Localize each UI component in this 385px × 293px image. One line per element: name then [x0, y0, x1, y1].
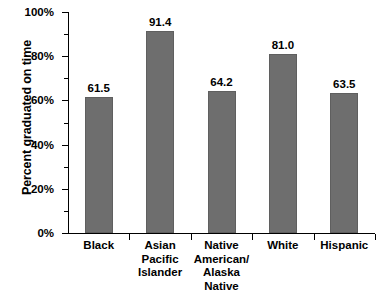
y-tick-label: 0%	[37, 225, 54, 241]
y-tick: 40%	[62, 145, 68, 146]
y-tick: 100%	[62, 12, 68, 13]
bar: 63.5	[330, 93, 358, 233]
bar-value-label: 64.2	[210, 75, 232, 89]
bar: 81.0	[269, 54, 297, 233]
x-tick	[375, 234, 376, 240]
y-tick-label: 40%	[31, 137, 54, 153]
plot-area: 0%20%40%60%80%100% 61.591.464.281.063.5	[68, 12, 375, 233]
y-minor-tick	[64, 167, 68, 168]
x-category-label: Asian Pacific Islander	[129, 239, 190, 280]
y-tick: 80%	[62, 56, 68, 57]
bar-value-label: 81.0	[272, 38, 294, 52]
y-minor-tick	[64, 34, 68, 35]
x-axis-line	[68, 233, 375, 234]
y-minor-tick	[64, 123, 68, 124]
bar: 91.4	[146, 31, 174, 233]
y-tick-label: 60%	[31, 92, 54, 108]
y-axis-line	[68, 12, 69, 234]
x-category-label: White	[252, 239, 313, 253]
y-tick: 20%	[62, 189, 68, 190]
y-tick: 60%	[62, 100, 68, 101]
y-minor-tick	[64, 211, 68, 212]
bar-value-label: 63.5	[333, 77, 355, 91]
y-tick: 0%	[62, 233, 68, 234]
y-tick-label: 20%	[31, 181, 54, 197]
x-category-label: Native American/ Alaska Native	[191, 239, 252, 293]
x-category-label: Hispanic	[314, 239, 375, 253]
y-tick-label: 80%	[31, 48, 54, 64]
y-minor-tick	[64, 78, 68, 79]
bar-value-label: 61.5	[87, 81, 109, 95]
y-axis-title: Percent graduated on time	[18, 0, 36, 235]
bar: 61.5	[85, 97, 113, 233]
bar-value-label: 91.4	[149, 15, 171, 29]
y-tick-label: 100%	[25, 4, 54, 20]
bar: 64.2	[208, 91, 236, 233]
x-category-label: Black	[68, 239, 129, 253]
